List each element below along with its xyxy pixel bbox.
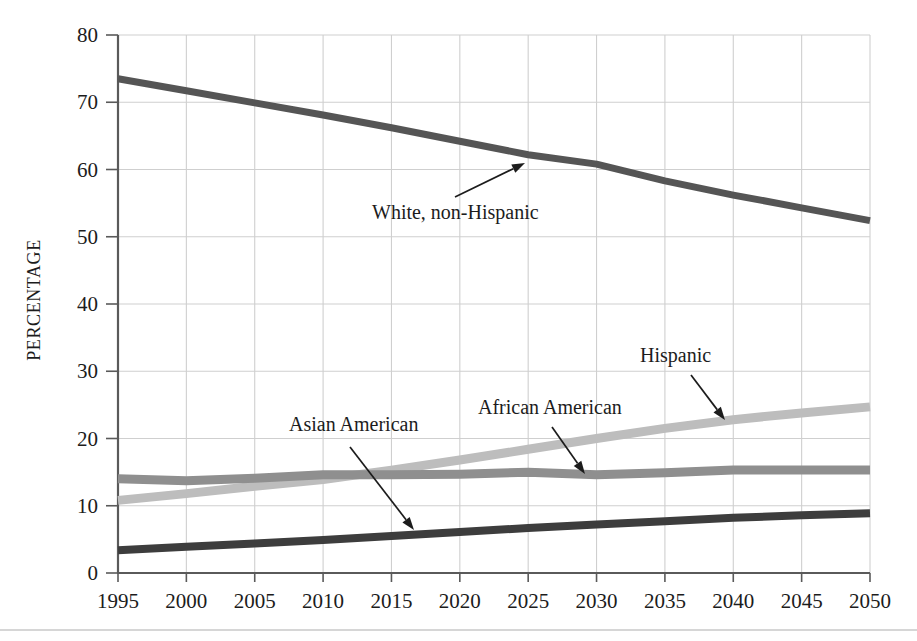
series-annotation-label: African American <box>478 396 622 418</box>
x-axis-tick-label: 2040 <box>712 589 754 613</box>
x-axis-tick-label: 2045 <box>781 589 823 613</box>
x-axis-tick-label: 2020 <box>439 589 481 613</box>
x-axis-tick-label: 2050 <box>849 589 891 613</box>
y-axis-tick-label: 20 <box>77 427 98 451</box>
x-axis-tick-label: 2005 <box>234 589 276 613</box>
x-axis-tick-label: 2000 <box>165 589 207 613</box>
x-axis-tick-label: 1995 <box>97 589 139 613</box>
chart-background <box>0 0 917 641</box>
x-axis-tick-label: 2035 <box>644 589 686 613</box>
y-axis-title: PERCENTAGE <box>24 239 44 361</box>
series-annotation-label: Hispanic <box>640 344 711 367</box>
y-axis-tick-label: 30 <box>77 359 98 383</box>
population-projection-line-chart: 01020304050607080 1995200020052010201520… <box>0 0 917 641</box>
x-axis-tick-label: 2030 <box>576 589 618 613</box>
y-axis-tick-label: 50 <box>77 225 98 249</box>
x-axis-tick-label: 2010 <box>302 589 344 613</box>
chart-figure: 01020304050607080 1995200020052010201520… <box>0 0 917 641</box>
y-axis-tick-label: 10 <box>77 494 98 518</box>
y-axis-tick-label: 0 <box>88 561 99 585</box>
y-axis-tick-label: 60 <box>77 158 98 182</box>
x-axis-tick-label: 2015 <box>370 589 412 613</box>
series-annotation-label: White, non-Hispanic <box>372 201 539 224</box>
x-axis-tick-label: 2025 <box>507 589 549 613</box>
y-axis-tick-label: 70 <box>77 90 98 114</box>
y-axis-tick-label: 40 <box>77 292 98 316</box>
series-annotation-label: Asian American <box>289 413 418 435</box>
y-axis-tick-label: 80 <box>77 23 98 47</box>
